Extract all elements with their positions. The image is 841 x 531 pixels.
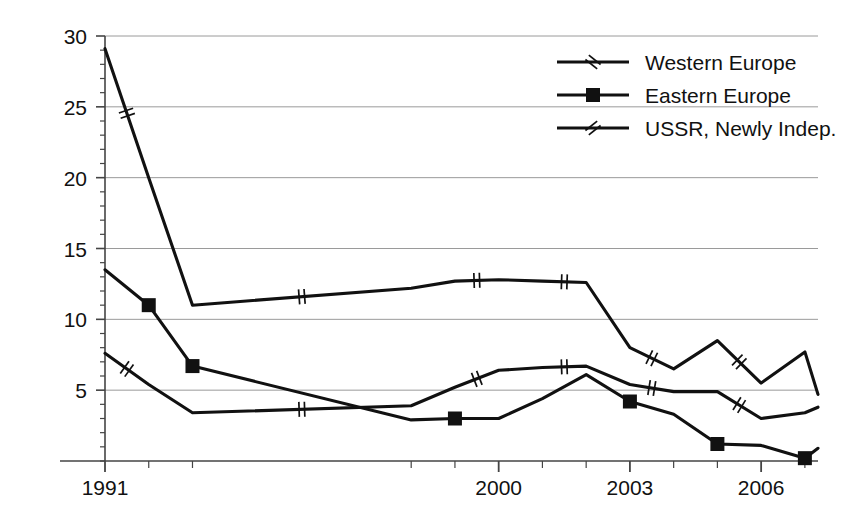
figure-caption — [55, 512, 841, 531]
series-marker-square — [623, 395, 637, 409]
y-tick-label: 5 — [75, 379, 87, 402]
y-tick-label: 15 — [64, 238, 87, 261]
series-marker-slash — [653, 381, 655, 396]
legend-label: Western Europe — [645, 51, 796, 74]
chart-legend: Western EuropeEastern EuropeUSSR, Newly … — [557, 51, 836, 140]
legend-marker-square — [586, 88, 600, 102]
x-axis: 1991200020032006 — [60, 461, 818, 499]
y-axis: 51015202530 — [64, 25, 105, 461]
y-tick-label: 10 — [64, 308, 87, 331]
x-tick-label: 2000 — [475, 476, 522, 499]
y-tick-label: 25 — [64, 96, 87, 119]
series-marker-square — [448, 412, 462, 426]
series-marker-slash — [299, 289, 300, 304]
x-tick-label: 2006 — [738, 476, 785, 499]
x-tick-label: 2003 — [607, 476, 654, 499]
y-tick-label: 30 — [64, 25, 87, 48]
series-line — [105, 270, 818, 458]
series-marker-square — [798, 451, 812, 465]
x-tick-label: 1991 — [82, 476, 129, 499]
series-marker-square — [185, 359, 199, 373]
y-tick-label: 20 — [64, 167, 87, 190]
series-line — [105, 353, 818, 418]
series-marker-slash — [648, 380, 650, 395]
line-chart: 51015202530 1991200020032006 Western Eur… — [0, 0, 841, 531]
legend-label: Eastern Europe — [645, 84, 791, 107]
data-series — [105, 49, 818, 465]
series-marker-square — [710, 437, 724, 451]
chart-canvas: 51015202530 1991200020032006 Western Eur… — [0, 0, 841, 531]
series-marker-square — [142, 298, 156, 312]
series-marker-slash — [304, 289, 305, 304]
legend-label: USSR, Newly Indep. — [645, 117, 836, 140]
